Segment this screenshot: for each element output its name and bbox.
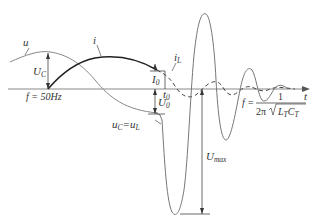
curve-iL-label: iL (174, 51, 181, 65)
f-supply-label: f = 50Hz (26, 91, 62, 102)
curve-i-label: i (93, 34, 96, 46)
time-axis-label: t (304, 90, 308, 102)
curve-uC-uL-label: uC=uL (112, 118, 140, 132)
svg-text:2π: 2π (256, 106, 266, 117)
curve-uC-uL (156, 14, 288, 215)
resonance-frequency-formula: f = 1 2π LTCT (242, 91, 306, 119)
curve-u-label: u (23, 36, 29, 48)
svg-text:LTCT: LTCT (277, 106, 299, 119)
waveform-diagram: t u i iL uC=uL UC f = 50Hz I0 t0 U0 (0, 0, 318, 223)
svg-text:f =: f = (242, 97, 254, 108)
svg-text:1: 1 (278, 91, 283, 102)
curve-iL (157, 70, 295, 97)
Umax-label: Umax (206, 150, 227, 164)
I0-label: I0 (151, 73, 160, 87)
UC-dimension: UC (33, 53, 50, 89)
curve-i (48, 57, 157, 89)
UC-label: UC (33, 65, 47, 79)
